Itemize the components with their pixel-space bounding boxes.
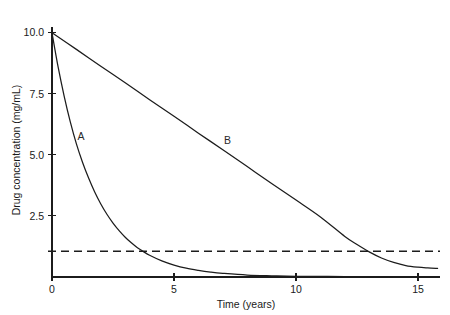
- series-label-b: B: [224, 134, 231, 146]
- y-axis-tick-labels: 2.55.07.510.0: [24, 26, 45, 221]
- x-tick-label: 5: [171, 283, 177, 295]
- y-tick-label: 2.5: [29, 210, 44, 222]
- x-tick-label: 10: [290, 283, 302, 295]
- y-tick-label: 10.0: [24, 26, 45, 38]
- series-line-a: [52, 33, 438, 277]
- x-tick-label: 0: [49, 283, 55, 295]
- x-axis-tick-labels: 051015: [49, 283, 424, 295]
- axes-group: [52, 27, 440, 277]
- series-line-b: [52, 33, 438, 269]
- x-axis-title: Time (years): [217, 298, 276, 310]
- y-tick-label: 5.0: [29, 149, 44, 161]
- series-inline-labels: AB: [78, 130, 231, 146]
- chart-svg: 2.55.07.510.0 051015 AB Time (years) Dru…: [0, 0, 450, 315]
- x-tick-label: 15: [412, 283, 424, 295]
- y-axis-title: Drug concentration (mg/mL): [10, 85, 22, 216]
- drug-concentration-chart: 2.55.07.510.0 051015 AB Time (years) Dru…: [0, 0, 450, 315]
- series-label-a: A: [78, 130, 85, 142]
- y-tick-label: 7.5: [29, 88, 44, 100]
